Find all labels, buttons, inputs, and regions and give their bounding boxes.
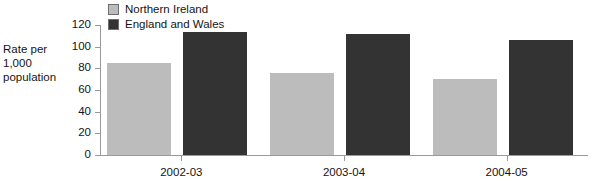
y-axis-tick-mark — [95, 133, 100, 134]
y-axis-caption-line: population — [3, 70, 73, 84]
y-axis-caption: Rate per1,000population — [3, 42, 73, 84]
bar — [270, 73, 334, 155]
y-axis-tick-mark — [95, 112, 100, 113]
y-axis-tick-label: 80 — [78, 61, 91, 74]
y-axis-tick-label: 60 — [78, 83, 91, 96]
legend-swatch-icon — [108, 4, 119, 15]
x-axis-tick-mark — [507, 156, 508, 161]
legend-label: Northern Ireland — [125, 3, 208, 15]
bar — [509, 40, 573, 155]
x-axis-tick-mark — [344, 156, 345, 161]
y-axis-tick-label: 20 — [78, 126, 91, 139]
x-axis-tick-mark — [181, 156, 182, 161]
legend-item: Northern Ireland — [108, 2, 368, 16]
y-axis-tick-label: 0 — [85, 148, 91, 161]
x-axis-tick-label: 2003-04 — [323, 166, 365, 179]
y-axis-tick-label: 120 — [72, 18, 91, 31]
y-axis-caption-line: 1,000 — [3, 56, 73, 70]
y-axis-tick-mark — [95, 25, 100, 26]
y-axis-tick-mark — [95, 68, 100, 69]
bar — [433, 79, 497, 155]
x-axis-tick-label: 2004-05 — [486, 166, 528, 179]
y-axis-tick-mark — [95, 47, 100, 48]
y-axis-tick-mark — [95, 155, 100, 156]
x-axis-tick-label: 2002-03 — [160, 166, 202, 179]
bar-chart: Northern IrelandEngland and Wales Rate p… — [0, 0, 605, 186]
y-axis-line — [100, 25, 101, 155]
bar — [183, 32, 247, 156]
bar — [346, 34, 410, 155]
y-axis-caption-line: Rate per — [3, 42, 73, 56]
y-axis-tick-mark — [95, 90, 100, 91]
y-axis-tick-label: 40 — [78, 105, 91, 118]
bar — [107, 63, 171, 155]
y-axis-tick-label: 100 — [72, 40, 91, 53]
plot-area: 0204060801001202002-032003-042004-05 — [100, 25, 588, 155]
